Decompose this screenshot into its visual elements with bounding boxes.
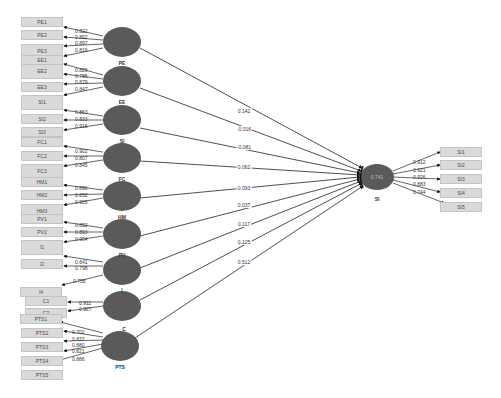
- loading: 0.897: [75, 40, 88, 46]
- indicator-si1-right[interactable]: SI1: [440, 147, 482, 157]
- loading: 0.852: [75, 222, 88, 228]
- loading: 0.847: [75, 86, 88, 92]
- loading: 0.883: [413, 181, 426, 187]
- construct-pv[interactable]: [103, 219, 141, 249]
- construct-label: FC: [119, 176, 126, 182]
- indicator-si1[interactable]: SI1: [21, 95, 63, 110]
- path-coefficient: 0.117: [237, 221, 251, 227]
- construct-label: SI: [120, 138, 125, 144]
- path-coefficient: -0.081: [236, 144, 252, 150]
- indicator-si2-right[interactable]: SI2: [440, 160, 482, 170]
- indicator-pv2[interactable]: PV2: [21, 227, 63, 237]
- indicator-i2[interactable]: I2: [21, 259, 63, 269]
- construct-label: PV: [119, 252, 126, 258]
- loading: 0.902: [75, 148, 88, 154]
- construct-hm[interactable]: [103, 181, 141, 211]
- path-coefficient: 0.142: [237, 108, 252, 114]
- loading: 0.852: [75, 192, 88, 198]
- construct-si-exo[interactable]: [103, 105, 141, 135]
- construct-pe[interactable]: [103, 27, 141, 57]
- construct-c[interactable]: [103, 291, 141, 321]
- loading: 0.912: [413, 159, 426, 165]
- loading: 0.921: [413, 167, 426, 173]
- indicator-hm2[interactable]: HM2: [21, 190, 63, 200]
- construct-i[interactable]: [103, 255, 141, 285]
- loading: 0.702: [72, 329, 85, 335]
- construct-label: I: [121, 287, 122, 293]
- loading: 0.798: [75, 265, 88, 271]
- indicator-fc2[interactable]: FC2: [21, 151, 63, 161]
- indicator-si2[interactable]: SI2: [21, 114, 63, 124]
- indicator-pe1[interactable]: PE1: [21, 17, 63, 27]
- construct-label: C: [122, 326, 126, 332]
- indicator-pts5[interactable]: PTS5: [21, 370, 63, 380]
- loading: 0.916: [75, 123, 88, 129]
- loading: 0.893: [75, 229, 88, 235]
- loading: 0.758: [73, 278, 86, 284]
- construct-ee[interactable]: [103, 66, 141, 96]
- path-coefficient: 0.512: [237, 259, 252, 265]
- loading: 0.744: [413, 189, 426, 195]
- construct-label-si: SI: [375, 196, 380, 202]
- loading: 0.807: [75, 155, 88, 161]
- loading: 0.879: [75, 79, 88, 85]
- indicator-c1[interactable]: C1: [25, 296, 67, 306]
- loading: 0.816: [75, 47, 88, 53]
- indicator-pts1[interactable]: PTS1: [20, 314, 62, 324]
- loading: 0.863: [75, 109, 88, 115]
- indicator-si4-right[interactable]: SI4: [440, 188, 482, 198]
- loading: 0.833: [75, 116, 88, 122]
- indicator-hm1[interactable]: HM1: [21, 177, 63, 187]
- construct-fc[interactable]: [103, 143, 141, 173]
- loading: 0.886: [72, 356, 85, 362]
- indicator-si3-right[interactable]: SI3: [440, 174, 482, 184]
- indicator-pv1[interactable]: PV1: [21, 214, 63, 224]
- loading: 0.926: [413, 174, 426, 180]
- path-coefficient: 0.093: [237, 185, 252, 191]
- path-coefficient: -0.016: [236, 126, 252, 132]
- loading: 0.845: [75, 162, 88, 168]
- indicator-fc1[interactable]: FC1: [21, 137, 63, 147]
- indicator-ee3[interactable]: EE3: [21, 82, 63, 92]
- construct-label: EE: [119, 99, 126, 105]
- path-coefficient: 0.062: [237, 164, 252, 170]
- loading: 0.905: [75, 199, 88, 205]
- loading: 0.904: [75, 236, 88, 242]
- indicator-pe2[interactable]: PE2: [21, 30, 63, 40]
- path-coefficient: 0.125: [237, 239, 252, 245]
- path-coefficient: 0.037: [237, 202, 252, 208]
- indicator-i1[interactable]: I1: [21, 240, 63, 255]
- indicator-si3[interactable]: SI3: [21, 127, 63, 137]
- indicator-pts4[interactable]: PTS4: [21, 356, 63, 366]
- loading: 0.890: [75, 185, 88, 191]
- construct-pts[interactable]: [101, 331, 139, 361]
- loading: 0.821: [72, 348, 85, 354]
- loading: 0.927: [79, 306, 92, 312]
- indicator-ee2[interactable]: EE2: [21, 64, 63, 79]
- indicator-pts3[interactable]: PTS3: [21, 342, 63, 352]
- r-squared-value: 0.741: [371, 174, 384, 180]
- indicator-si5-right[interactable]: SI5: [440, 202, 482, 212]
- construct-label: PTS: [115, 364, 125, 370]
- indicator-pts2[interactable]: PTS2: [21, 328, 63, 338]
- construct-label: HM: [118, 214, 126, 220]
- construct-label: PE: [119, 60, 126, 66]
